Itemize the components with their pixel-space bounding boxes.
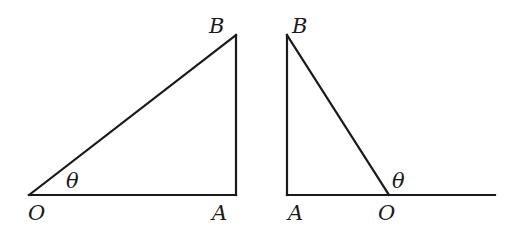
- label-a-right: A: [286, 201, 303, 225]
- left-triangle: O A B θ: [28, 14, 236, 225]
- right-triangle: A O B θ: [286, 14, 495, 225]
- label-b-left: B: [208, 14, 224, 38]
- diagram-canvas: O A B θ A O B θ: [0, 0, 516, 244]
- label-theta-left: θ: [66, 169, 79, 193]
- segment-bo-right: [287, 35, 389, 195]
- label-a-left: A: [210, 201, 227, 225]
- label-o-right: O: [378, 201, 395, 225]
- label-b-right: B: [291, 14, 307, 38]
- label-o-left: O: [28, 201, 45, 225]
- label-theta-right: θ: [392, 169, 405, 193]
- segment-ob-left: [29, 35, 236, 195]
